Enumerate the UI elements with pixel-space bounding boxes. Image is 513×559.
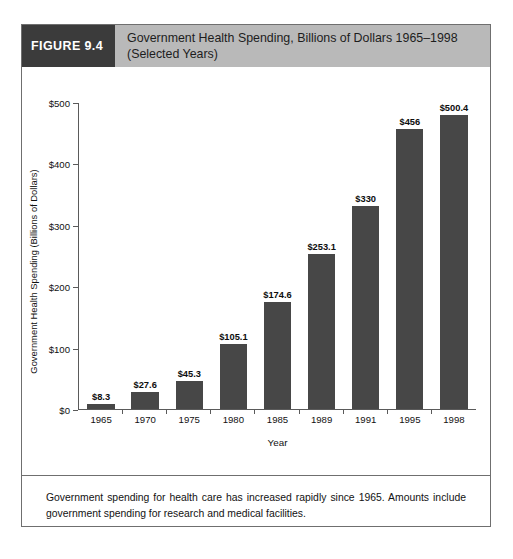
figure-number-block: FIGURE 9.4 [22, 25, 115, 67]
x-axis-tick-labels: 196519701975198019851989199119951998 [79, 414, 476, 425]
y-axis-tick-label: $300 [49, 220, 70, 231]
x-axis-tick-label: 1989 [300, 414, 344, 425]
figure-number-label: FIGURE 9.4 [31, 39, 103, 53]
x-axis-title: Year [79, 437, 476, 448]
y-axis-tick-mark [73, 103, 78, 104]
bar-group[interactable]: $27.6 [123, 103, 167, 409]
bar-value-label: $105.1 [219, 332, 247, 342]
y-axis-tick-mark [73, 287, 78, 288]
bar-value-label: $174.6 [263, 290, 291, 300]
y-axis-tick-label: $400 [49, 159, 70, 170]
bar[interactable] [264, 302, 291, 409]
bar-group[interactable]: $174.6 [255, 103, 299, 409]
bar-group[interactable]: $45.3 [167, 103, 211, 409]
bar-value-label: $8.3 [92, 392, 110, 402]
figure-title-block: Government Health Spending, Billions of … [115, 25, 490, 67]
y-axis-tick-mark [73, 410, 78, 411]
bar-group[interactable]: $456 [388, 103, 432, 409]
chart-region: Government Health Spending (Billions of … [22, 67, 490, 475]
y-axis-title: Government Health Spending (Billions of … [25, 67, 41, 475]
x-axis-tick-label: 1995 [388, 414, 432, 425]
x-axis-tick-label: 1965 [79, 414, 123, 425]
y-axis-tick-label: $0 [59, 405, 70, 416]
x-axis-tick-label: 1991 [344, 414, 388, 425]
x-axis-tick-label: 1998 [432, 414, 476, 425]
x-axis-tick-label: 1980 [211, 414, 255, 425]
y-axis-tick-mark [73, 226, 78, 227]
bar-group[interactable]: $105.1 [211, 103, 255, 409]
bar-value-label: $45.3 [178, 369, 201, 379]
bar[interactable] [308, 254, 335, 409]
bar[interactable] [440, 115, 467, 409]
y-axis-title-label: Government Health Spending (Billions of … [28, 169, 39, 373]
x-axis-tick-label: 1970 [123, 414, 167, 425]
bar-group[interactable]: $330 [344, 103, 388, 409]
x-axis-line [78, 409, 476, 410]
bar[interactable] [176, 381, 203, 409]
bar[interactable] [87, 404, 114, 409]
figure-header: FIGURE 9.4 Government Health Spending, B… [22, 25, 490, 67]
figure-title-line-2: (Selected Years) [127, 46, 480, 63]
figure-caption: Government spending for health care has … [22, 476, 490, 521]
bar-group[interactable]: $253.1 [300, 103, 344, 409]
bar-group[interactable]: $8.3 [79, 103, 123, 409]
bar-value-label: $500.4 [440, 103, 468, 113]
bar[interactable] [131, 392, 158, 409]
y-axis-tick-mark [73, 349, 78, 350]
x-axis-tick-label: 1985 [255, 414, 299, 425]
bar[interactable] [220, 344, 247, 409]
figure-title-line-1: Government Health Spending, Billions of … [127, 30, 480, 47]
bar[interactable] [396, 129, 423, 409]
y-axis-tick-label: $200 [49, 282, 70, 293]
figure-box: FIGURE 9.4 Government Health Spending, B… [21, 24, 491, 527]
bar-group[interactable]: $500.4 [432, 103, 476, 409]
bar-value-label: $456 [399, 117, 420, 127]
y-axis-tick-label: $500 [49, 98, 70, 109]
bar-value-label: $27.6 [134, 380, 157, 390]
bar-series: $8.3$27.6$45.3$105.1$174.6$253.1$330$456… [79, 103, 476, 409]
x-axis-tick-label: 1975 [167, 414, 211, 425]
bar-value-label: $330 [355, 194, 376, 204]
y-axis-tick-mark [73, 164, 78, 165]
y-axis-tick-label: $100 [49, 343, 70, 354]
plot-area: $0$100$200$300$400$500 $8.3$27.6$45.3$10… [78, 103, 476, 410]
bar-value-label: $253.1 [307, 242, 335, 252]
bar[interactable] [352, 206, 379, 409]
